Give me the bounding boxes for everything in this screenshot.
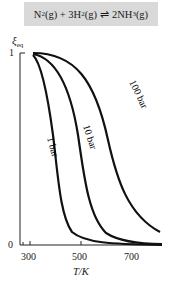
label-100-bar: 100 bar <box>127 78 150 111</box>
y-tick-label-0: 0 <box>8 239 13 250</box>
label-10-bar: 10 bar <box>81 123 99 151</box>
chart-plot: 1 bar 10 bar 100 bar <box>0 0 170 282</box>
y-tick-label-1: 1 <box>9 47 14 58</box>
x-tick-label-500: 500 <box>72 251 87 262</box>
label-1-bar: 1 bar <box>45 136 61 159</box>
x-axis-label: T/K <box>73 266 89 277</box>
x-tick-label-700: 700 <box>124 251 139 262</box>
x-tick-label-300: 300 <box>21 251 36 262</box>
x-label-text: T/K <box>73 266 89 277</box>
